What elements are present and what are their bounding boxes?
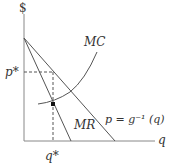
price-label: p*	[5, 66, 19, 78]
diagram-canvas	[0, 0, 171, 167]
mc-label: MC	[84, 36, 105, 48]
demand-curve	[24, 38, 115, 141]
mc-curve	[38, 52, 97, 104]
mr-label: MR	[74, 119, 95, 131]
equilibrium-point	[51, 102, 55, 106]
y-axis-label: $	[19, 2, 27, 14]
monopoly-diagram: $ p* q* q MC MR p = g⁻¹ (q)	[0, 0, 171, 167]
quantity-label: q*	[45, 150, 59, 162]
mr-curve	[24, 38, 71, 141]
x-axis-label: q	[158, 134, 166, 146]
demand-label: p = g⁻¹ (q)	[105, 114, 165, 125]
